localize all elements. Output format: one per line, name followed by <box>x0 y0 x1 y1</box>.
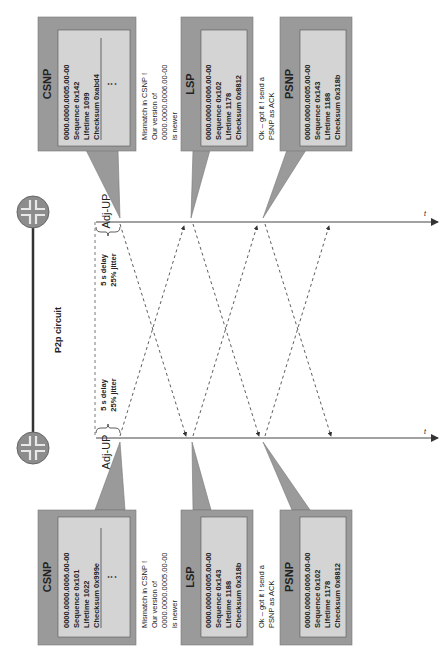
svg-text:Our version of: Our version of <box>150 92 159 140</box>
callout-title: LSP <box>184 73 196 94</box>
svg-text:Ok – got it ! send a: Ok – got it ! send a <box>257 76 266 140</box>
jitter-label: 25% jitter <box>109 378 118 411</box>
message-arrows <box>120 224 331 436</box>
csnp-callout-top: CSNP 0000.0000.0005.00-00 Sequence 0x142… <box>38 17 136 218</box>
checksum: Checksum 0x999e <box>92 563 101 628</box>
ack-note-bottom: Ok – got it ! send a PSNP as ACK <box>257 564 276 628</box>
lifetime: Lifetime 1178 <box>224 93 233 140</box>
svg-text:Mismatch in CSNP !: Mismatch in CSNP ! <box>140 561 149 628</box>
psnp-callout-top: PSNP 0000.0000.0005.00-00 Sequence 0x143… <box>263 17 352 218</box>
lsp-id: 0000.0000.0006.00-00 <box>204 65 213 141</box>
ellipsis: ⋮ <box>106 572 117 582</box>
lifetime: Lifetime 1188 <box>323 93 332 140</box>
adj-up-label: Adj-UP <box>100 435 112 470</box>
checksum: Checksum 0x8812 <box>234 75 243 140</box>
sequence: Sequence 0x102 <box>214 82 223 140</box>
lifetime: Lifetime 1022 <box>82 580 91 628</box>
ellipsis: ⋮ <box>106 79 117 89</box>
time-axis-label: t <box>424 428 427 435</box>
lsp-id: 0000.0000.0006.00-00 <box>62 553 71 629</box>
lsp-id: 0000.0000.0006.00-00 <box>303 553 312 629</box>
svg-text:Mismatch in CSNP !: Mismatch in CSNP ! <box>140 73 149 140</box>
time-axis-label: t <box>424 210 427 217</box>
svg-text:0000.0000.0005.00-00: 0000.0000.0005.00-00 <box>160 553 169 629</box>
router-icon <box>17 196 49 228</box>
lsp-callout-top: LSP 0000.0000.0006.00-00 Sequence 0x102 … <box>181 17 253 218</box>
lifetime: Lifetime 1178 <box>323 581 332 628</box>
svg-text:PSNP as ACK: PSNP as ACK <box>267 581 276 628</box>
jitter-label: 25% jitter <box>109 253 118 286</box>
lifetime: Lifetime 1188 <box>224 581 233 628</box>
mismatch-note-top: Mismatch in CSNP ! Our version of 0000.0… <box>140 65 179 141</box>
csnp-callout-bottom: CSNP 0000.0000.0006.00-00 Sequence 0x101… <box>38 442 136 645</box>
lsp-id: 0000.0000.0005.00-00 <box>204 553 213 629</box>
delay-label: 5 s delay <box>99 253 108 286</box>
router-icon <box>17 432 49 464</box>
svg-text:Ok – got it ! send a: Ok – got it ! send a <box>257 564 266 628</box>
sequence: Sequence 0x143 <box>313 82 322 140</box>
ack-note-top: Ok – got it ! send a PSNP as ACK <box>257 76 276 140</box>
mismatch-note-bottom: Mismatch in CSNP ! Our version of 0000.0… <box>140 553 179 629</box>
sequence: Sequence 0x102 <box>313 570 322 628</box>
svg-text:PSNP as ACK: PSNP as ACK <box>267 93 276 140</box>
delay-label: 5 s delay <box>99 378 108 411</box>
svg-text:is newer: is newer <box>170 600 179 628</box>
svg-text:is newer: is newer <box>170 112 179 140</box>
callout-title: CSNP <box>41 562 53 593</box>
svg-text:Our version of: Our version of <box>150 580 159 628</box>
lsp-id: 0000.0000.0005.00-00 <box>303 65 312 141</box>
checksum: Checksum 0x318b <box>234 562 243 628</box>
delay-brace <box>96 424 120 433</box>
sequence-diagram: P2p circuit t t Adj-UP Adj-UP 5 s delay … <box>0 0 443 667</box>
callout-title: CSNP <box>41 69 53 100</box>
callout-title: PSNP <box>283 562 295 592</box>
sequence: Sequence 0x142 <box>72 82 81 140</box>
callout-title: PSNP <box>283 69 295 99</box>
sequence: Sequence 0x101 <box>72 570 81 628</box>
p2p-circuit-label: P2p circuit <box>53 307 63 353</box>
sequence: Sequence 0x143 <box>214 570 223 628</box>
lsp-id: 0000.0000.0005.00-00 <box>62 65 71 141</box>
checksum: Checksum 0x8812 <box>333 563 342 628</box>
svg-text:0000.0000.0006.00-00: 0000.0000.0006.00-00 <box>160 65 169 141</box>
checksum: Checksum 0x318b <box>333 74 342 140</box>
callout-title: LSP <box>184 566 196 587</box>
psnp-callout-bottom: PSNP 0000.0000.0006.00-00 Sequence 0x102… <box>263 442 352 645</box>
lsp-callout-bottom: LSP 0000.0000.0005.00-00 Sequence 0x143 … <box>181 442 253 645</box>
lifetime: Lifetime 1099 <box>82 92 91 140</box>
checksum: Checksum 0xabd4 <box>92 73 101 140</box>
